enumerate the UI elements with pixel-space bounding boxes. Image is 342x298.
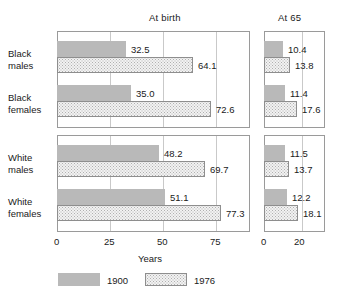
row-label-line2: females [8, 104, 58, 116]
value-1976-black-males-at-birth: 64.1 [198, 60, 217, 71]
row-label-black-females: Black females [0, 92, 58, 115]
row-label-line1: White [8, 152, 58, 164]
bar-1976-black-males-at-65 [264, 57, 290, 73]
xtick-main-0: 0 [54, 236, 59, 247]
panel-title-at-65: At 65 [278, 12, 301, 23]
row-label-line2: females [8, 208, 58, 220]
legend-label-1976: 1976 [194, 275, 215, 286]
xtick-main-25: 25 [104, 236, 115, 247]
value-1900-black-males-at-65: 10.4 [288, 44, 307, 55]
row-label-black-males: Black males [0, 48, 58, 71]
bar-1900-white-females-at-birth [57, 189, 165, 205]
value-1900-black-females-at-65: 11.4 [290, 88, 308, 99]
bar-1900-black-females-at-birth [57, 85, 131, 101]
panel-title-at-birth: At birth [149, 12, 181, 23]
row-label-line1: Black [8, 48, 58, 60]
value-1976-black-females-at-65: 17.6 [302, 104, 321, 115]
bar-1900-black-males-at-birth [57, 41, 126, 57]
bar-1900-white-males-at-birth [57, 145, 159, 161]
value-1900-white-females-at-65: 12.2 [292, 192, 311, 203]
bar-1976-white-males-at-65 [264, 161, 289, 177]
bar-1976-black-females-at-birth [57, 101, 211, 117]
xtick-right-0: 0 [261, 236, 266, 247]
value-1900-white-females-at-birth: 51.1 [170, 192, 189, 203]
bar-1976-white-females-at-birth [57, 205, 221, 221]
row-label-white-females: White females [0, 196, 58, 219]
legend-swatch-1976 [145, 273, 187, 286]
bar-1900-white-females-at-65 [264, 189, 287, 205]
row-label-line2: males [8, 164, 58, 176]
xtick-main-50: 50 [157, 236, 168, 247]
bar-1900-black-males-at-65 [264, 41, 283, 57]
row-label-line1: White [8, 196, 58, 208]
bar-1976-white-females-at-65 [264, 205, 298, 221]
value-1900-white-males-at-birth: 48.2 [164, 148, 183, 159]
life-expectancy-chart: At birth At 65 32.5 64.1 35.0 72.6 48.2 … [0, 0, 342, 298]
bar-1900-white-males-at-65 [264, 145, 285, 161]
value-1976-white-males-at-birth: 69.7 [210, 164, 229, 175]
value-1976-white-males-at-65: 13.7 [294, 164, 313, 175]
row-label-white-males: White males [0, 152, 58, 175]
value-1900-black-females-at-birth: 35.0 [136, 88, 155, 99]
value-1976-black-males-at-65: 13.8 [295, 60, 314, 71]
legend-swatch-1900 [58, 273, 100, 286]
bar-1976-white-males-at-birth [57, 161, 205, 177]
xtick-main-75: 75 [210, 236, 221, 247]
value-1976-black-females-at-birth: 72.6 [216, 104, 235, 115]
legend-label-1900: 1900 [107, 275, 128, 286]
row-label-line1: Black [8, 92, 58, 104]
bar-1976-black-males-at-birth [57, 57, 193, 73]
x-axis-label: Years [138, 253, 162, 264]
value-1976-white-females-at-65: 18.1 [303, 208, 322, 219]
value-1976-white-females-at-birth: 77.3 [226, 208, 245, 219]
value-1900-white-males-at-65: 11.5 [290, 148, 308, 159]
bar-1976-black-females-at-65 [264, 101, 297, 117]
xtick-right-20: 20 [294, 236, 305, 247]
row-label-line2: males [8, 60, 58, 72]
bar-1900-black-females-at-65 [264, 85, 285, 101]
value-1900-black-males-at-birth: 32.5 [131, 44, 150, 55]
